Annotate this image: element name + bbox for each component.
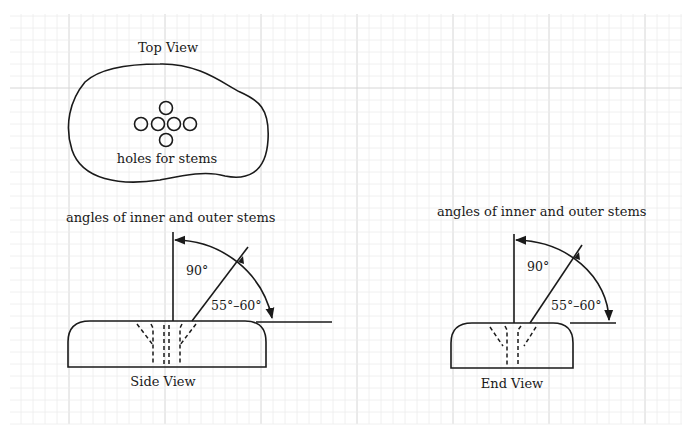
angle-90-label: 90°: [186, 263, 208, 278]
foam-block-end: [451, 323, 573, 368]
side-view: angles of inner and outer stems 90° 55°–…: [66, 210, 332, 389]
diagram-canvas: Top View holes for stems angles of inner…: [0, 0, 695, 435]
angle-55-60-label: 55°–60°: [211, 298, 262, 313]
side-view-heading: angles of inner and outer stems: [66, 210, 275, 225]
end-view-heading: angles of inner and outer stems: [437, 204, 646, 219]
top-view: Top View holes for stems: [68, 40, 268, 182]
stem-hole: [160, 134, 173, 147]
angle-90-label: 90°: [527, 259, 549, 274]
holes-caption: holes for stems: [117, 151, 217, 166]
hidden-stem-paths: [137, 324, 196, 364]
angle-55-60-label: 55°–60°: [551, 298, 602, 313]
top-view-title: Top View: [138, 40, 198, 55]
side-view-caption: Side View: [130, 374, 195, 389]
stem-hole: [160, 102, 173, 115]
end-view-caption: End View: [481, 376, 543, 391]
